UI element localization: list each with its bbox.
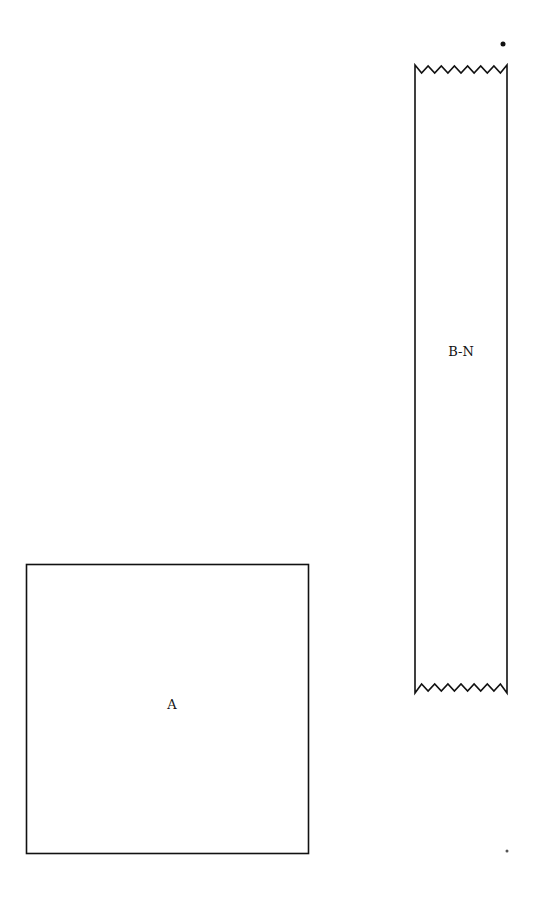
dot-top-right bbox=[501, 42, 506, 47]
shape-b-n-label: B-N bbox=[448, 344, 474, 359]
shape-b-n-strip bbox=[415, 65, 507, 693]
dot-bottom-right bbox=[506, 850, 509, 853]
shape-a-label: A bbox=[167, 697, 176, 712]
diagram-svg bbox=[0, 0, 548, 898]
diagram-canvas: A B-N bbox=[0, 0, 548, 898]
